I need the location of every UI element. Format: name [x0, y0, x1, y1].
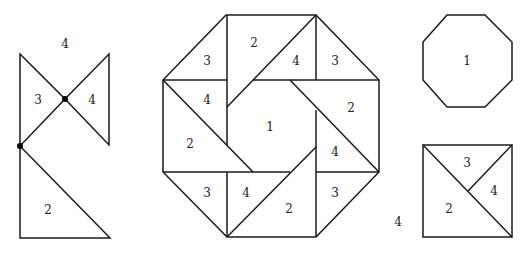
label-3: 3 [34, 93, 42, 107]
joint-dot-left [17, 143, 23, 149]
label-3-tl: 3 [203, 54, 211, 68]
label-1: 1 [266, 120, 274, 134]
label-top-4: 4 [61, 37, 69, 51]
label-3-br: 3 [331, 186, 339, 200]
center-figure: 1 3 2 4 3 4 2 2 4 3 4 2 3 [163, 15, 379, 237]
triangle-4-right [65, 54, 109, 145]
joint-dot-center [62, 96, 68, 102]
label-4-square: 4 [490, 184, 498, 198]
label-2-right: 2 [347, 101, 355, 115]
label-2-bottom: 2 [285, 202, 293, 216]
label-2-top: 2 [250, 36, 258, 50]
right-octagon-figure: 1 [423, 15, 512, 107]
label-3-tr: 3 [331, 54, 339, 68]
triangle-3-left [20, 54, 65, 146]
right-square-figure: 3 4 2 4 [394, 145, 512, 237]
label-2: 2 [44, 203, 52, 217]
triangle-2-bottom [20, 146, 110, 238]
label-2-left: 2 [186, 137, 194, 151]
label-3-square: 3 [463, 156, 471, 170]
tangram-diagram: 4 3 4 2 1 3 2 4 3 4 2 2 4 3 4 2 3 [0, 0, 528, 253]
label-1-small: 1 [463, 54, 471, 68]
label-4-right: 4 [331, 145, 339, 159]
label-4-outside: 4 [394, 215, 402, 229]
left-figure: 4 3 4 2 [17, 37, 110, 239]
label-4-top: 4 [292, 54, 300, 68]
label-2-square: 2 [445, 202, 453, 216]
edge [227, 147, 316, 237]
label-4: 4 [88, 93, 96, 107]
label-3-bl: 3 [203, 186, 211, 200]
label-4-bottom: 4 [242, 186, 250, 200]
label-4-left: 4 [203, 93, 211, 107]
